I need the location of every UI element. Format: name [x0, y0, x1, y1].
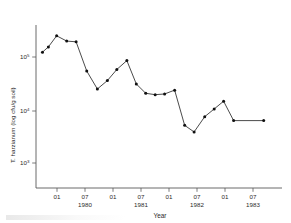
data-point — [115, 68, 118, 71]
y-axis-tick-labels: 105 104 103 — [20, 53, 30, 167]
data-point — [144, 92, 147, 95]
data-point — [193, 130, 196, 133]
y-axis-ticks — [32, 57, 36, 163]
x-tick-label-3: 01 — [110, 193, 117, 200]
year-label-1980: 1980 — [78, 201, 92, 208]
year-label-1981: 1981 — [134, 201, 148, 208]
data-point — [154, 93, 157, 96]
data-point — [213, 107, 216, 110]
y-tick-exponent-4: 4 — [27, 107, 30, 112]
y-tick-label-1e4: 104 — [20, 107, 30, 115]
data-point — [65, 40, 68, 43]
chart-axes — [36, 25, 282, 188]
series-line-t-harzianum — [42, 36, 263, 132]
x-axis-title: Year — [154, 212, 168, 219]
data-point — [262, 119, 265, 122]
data-point — [125, 59, 128, 62]
x-axis-year-labels: 1980 1981 1982 1983 — [78, 201, 260, 208]
data-point — [106, 79, 109, 82]
data-point — [173, 89, 176, 92]
caption-artifact — [6, 215, 126, 220]
chart-figure: 105 104 103 01 07 01 07 01 07 01 07 1980… — [0, 0, 291, 223]
x-tick-label-8: 07 — [250, 193, 257, 200]
x-tick-label-6: 07 — [194, 193, 201, 200]
y-axis-title: T. harzianum (log cfu/g soil) — [9, 87, 16, 163]
x-tick-label-7: 01 — [222, 193, 229, 200]
x-tick-label-1: 01 — [54, 193, 61, 200]
year-label-1982: 1982 — [190, 201, 204, 208]
data-point — [135, 82, 138, 85]
data-point — [55, 34, 58, 37]
y-tick-label-1e3: 103 — [20, 159, 30, 167]
data-point — [163, 92, 166, 95]
data-point — [96, 87, 99, 90]
data-point — [222, 100, 225, 103]
data-point — [232, 119, 235, 122]
x-axis-ticks — [57, 188, 253, 192]
data-point — [183, 124, 186, 127]
data-point — [41, 51, 44, 54]
data-point — [203, 115, 206, 118]
data-series-group — [41, 34, 265, 133]
data-point — [75, 40, 78, 43]
x-tick-label-2: 07 — [82, 193, 89, 200]
x-tick-label-4: 07 — [138, 193, 145, 200]
x-tick-label-5: 01 — [166, 193, 173, 200]
y-tick-exponent-5: 5 — [27, 53, 30, 58]
y-tick-label-1e5: 105 — [20, 53, 30, 61]
data-point — [85, 70, 88, 73]
y-tick-exponent-3: 3 — [27, 159, 30, 164]
series-markers-group — [41, 34, 265, 133]
year-label-1983: 1983 — [246, 201, 260, 208]
x-axis-tick-labels: 01 07 01 07 01 07 01 07 — [54, 193, 257, 200]
data-point — [47, 45, 50, 48]
line-chart-plot: 105 104 103 01 07 01 07 01 07 01 07 1980… — [0, 0, 291, 223]
